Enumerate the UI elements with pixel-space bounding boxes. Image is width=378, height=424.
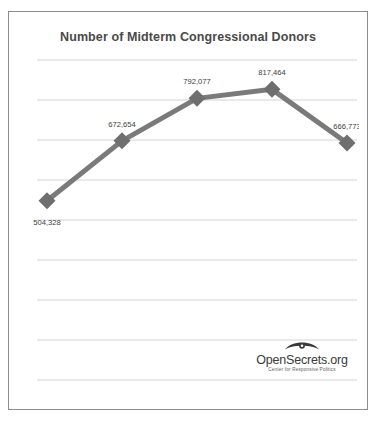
data-point-label: 666,773 [333, 122, 359, 131]
logo-tagline: Center for Responsive Politics [249, 368, 355, 373]
opensecrets-logo: OpenSecrets.org Center for Responsive Po… [249, 341, 355, 373]
chart-card: Number of Midterm Congressional Donors 5… [8, 11, 368, 410]
line-chart-svg: 504,328672,654792,077817,464666,773 1998… [19, 40, 359, 385]
eye-icon [280, 341, 324, 353]
data-point-label: 672,654 [108, 120, 135, 129]
gridlines-group [37, 60, 357, 380]
data-point-label: 504,328 [33, 218, 60, 227]
data-point-label: 792,077 [183, 77, 210, 86]
logo-wordmark: OpenSecrets.org [249, 354, 355, 367]
data-point-label: 817,464 [258, 68, 285, 77]
plot-area: 504,328672,654792,077817,464666,773 1998… [19, 40, 359, 385]
